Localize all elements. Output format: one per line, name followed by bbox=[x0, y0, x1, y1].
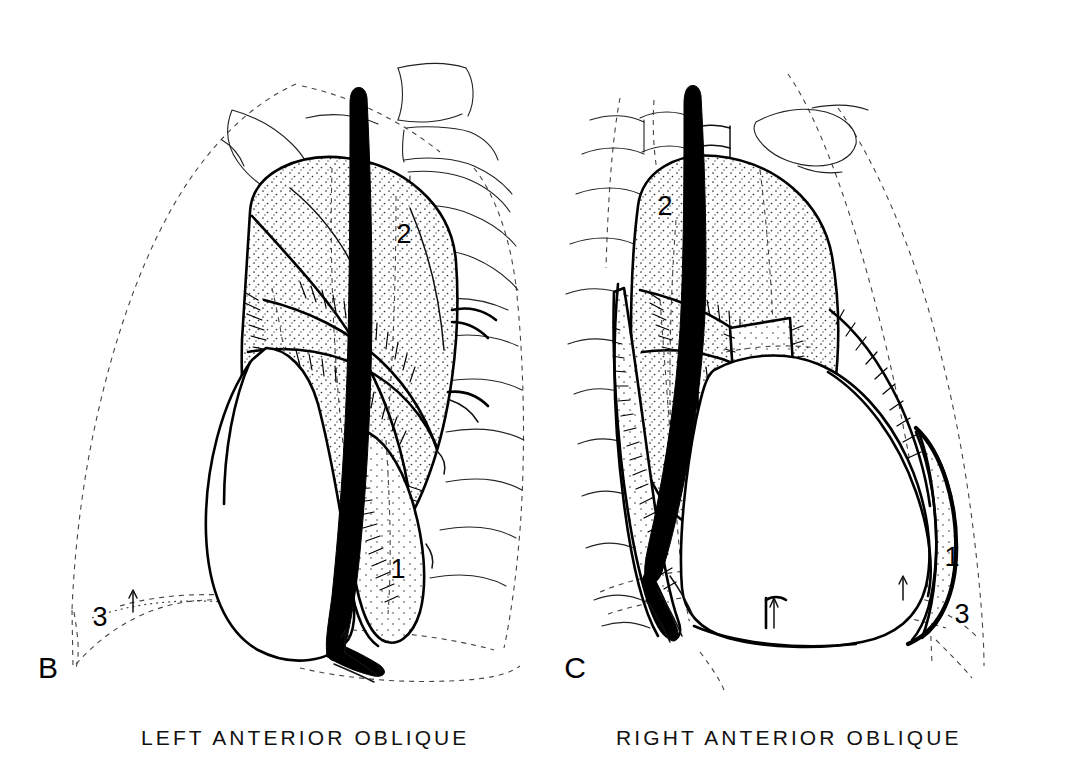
label-c-2: 2 bbox=[657, 191, 672, 221]
panel-letter-c: C bbox=[564, 651, 586, 684]
label-b-1: 1 bbox=[390, 554, 405, 584]
annotation-arrow-b-1 bbox=[129, 590, 137, 612]
clavicle-c bbox=[754, 105, 868, 173]
figure-canvas: 1 2 3 B bbox=[0, 0, 1072, 762]
label-c-1: 1 bbox=[944, 542, 959, 572]
caption-right-anterior-oblique: RIGHT ANTERIOR OBLIQUE bbox=[616, 726, 962, 749]
caption-left-anterior-oblique: LEFT ANTERIOR OBLIQUE bbox=[141, 726, 469, 749]
panel-c-group: 1 2 3 C bbox=[564, 74, 984, 690]
label-c-3: 3 bbox=[954, 599, 969, 629]
panel-b-group: 1 2 3 B bbox=[38, 64, 524, 685]
panel-letter-b: B bbox=[38, 651, 58, 684]
label-b-2: 2 bbox=[396, 219, 411, 249]
figure-root: 1 2 3 B bbox=[0, 0, 1072, 762]
label-b-3: 3 bbox=[92, 602, 107, 632]
cardiac-silhouette-c bbox=[681, 355, 931, 646]
